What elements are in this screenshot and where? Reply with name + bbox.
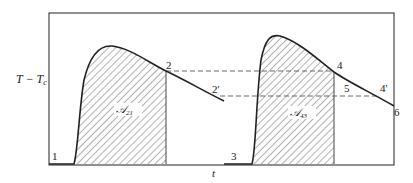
temperature-pulse-diagram: T − Tc t 1 2 2' 3 4 5 4' 6 𝒜21 𝒜43 bbox=[0, 0, 413, 183]
point-label-4prime: 4' bbox=[380, 82, 388, 94]
point-label-2prime: 2' bbox=[212, 83, 220, 95]
point-label-4: 4 bbox=[337, 59, 343, 71]
y-axis-label: T − Tc bbox=[16, 72, 47, 87]
point-label-5: 5 bbox=[344, 82, 350, 94]
point-label-1: 1 bbox=[52, 150, 58, 162]
point-label-3: 3 bbox=[231, 150, 237, 162]
area-label-21: 𝒜21 bbox=[114, 103, 142, 117]
area-label-43: 𝒜43 bbox=[288, 106, 316, 120]
point-label-2: 2 bbox=[166, 59, 172, 71]
hatched-area-43 bbox=[252, 36, 334, 164]
x-axis-label: t bbox=[212, 167, 216, 179]
point-label-6: 6 bbox=[394, 106, 400, 118]
